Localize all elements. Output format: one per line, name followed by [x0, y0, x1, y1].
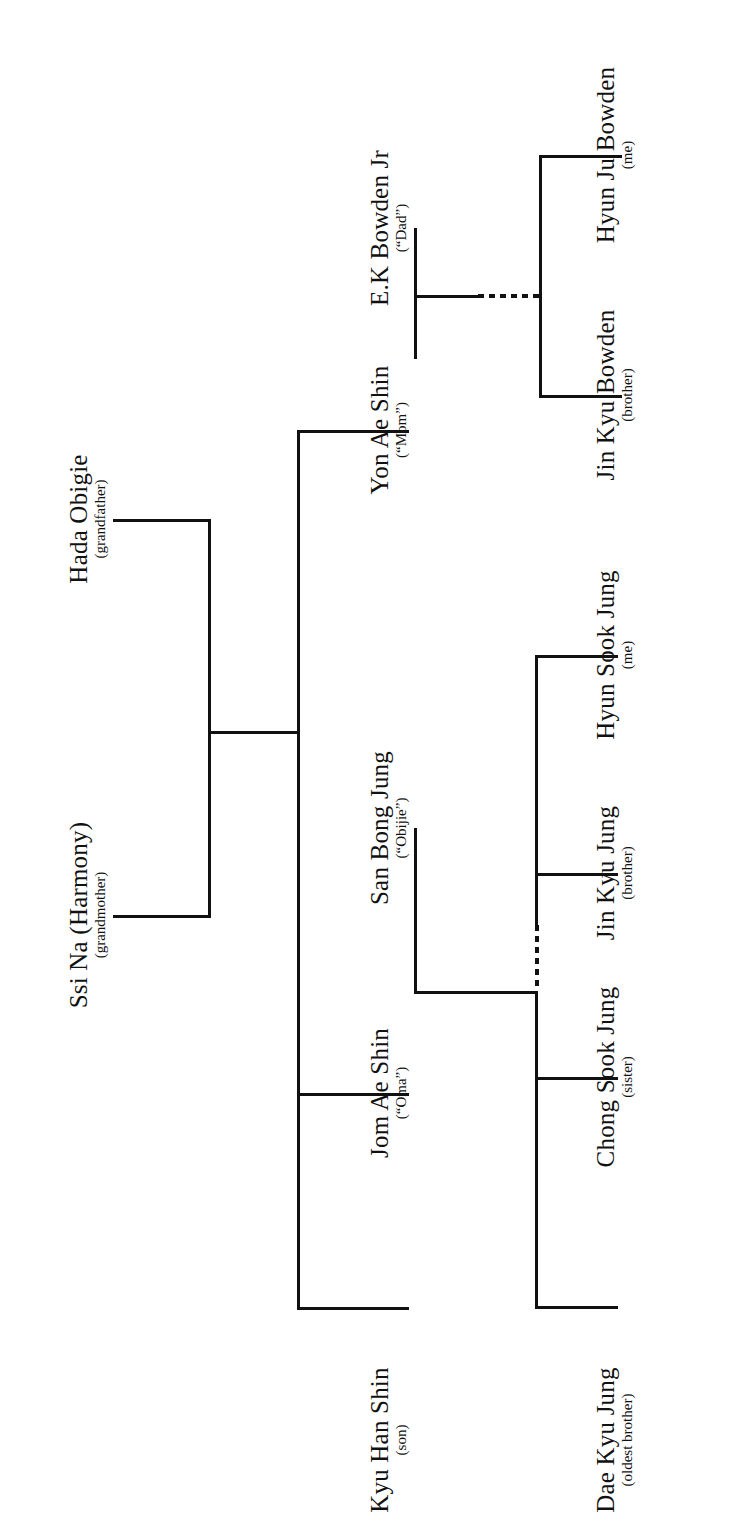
person-mom-role: (“Mom”) — [394, 402, 409, 458]
person-dad-role: (“Dad”) — [394, 204, 409, 252]
person-jung-oldest-name: Dae Kyu Jung — [593, 1367, 618, 1512]
person-jung-sister-name: Chong Sook Jung — [593, 987, 618, 1168]
person-bowden-brother: Jin Kyu Bowden (brother) — [635, 224, 677, 395]
person-grandmother-name: Ssi Na (Harmony) — [66, 822, 91, 1009]
line-oma-obijie-marriage-dotted — [535, 925, 539, 991]
person-dad-name: E.K Bowden Jr — [367, 150, 392, 306]
person-mom: Yon Ae Shin (“Mom”) — [409, 301, 451, 430]
line-grandfather-stub — [113, 519, 211, 522]
person-bowden-brother-name: Jin Kyu Bowden — [593, 310, 618, 481]
person-dad: E.K Bowden Jr (“Dad”) — [409, 72, 451, 228]
person-jung-sister-role: (sister) — [620, 1056, 635, 1098]
person-obijie-name: San Bong Jung — [367, 751, 392, 905]
person-grandfather-name: Hada Obigie — [66, 454, 91, 583]
line-grandmother-stub — [113, 915, 211, 918]
line-jung-children-bracket — [535, 655, 538, 927]
line-jung-oldest-stub — [535, 1306, 618, 1309]
person-jung-me-name: Hyun Sook Jung — [593, 570, 618, 740]
line-grandparents-descent — [208, 731, 300, 734]
person-bowden-me-name: Hyun Ju Bowden — [593, 67, 618, 243]
person-oma: Jom Ae Shin (“Oma”) — [409, 963, 451, 1093]
line-mom-dad-marriage-dotted — [478, 294, 542, 298]
line-mom-dad-union-stub — [414, 295, 478, 298]
person-grandfather: Hada Obigie (grandfather) — [108, 390, 150, 519]
person-grandfather-role: (grandfather) — [93, 479, 108, 558]
person-jung-brother-role: (brother) — [620, 846, 635, 899]
person-grandmother-role: (grandmother) — [93, 872, 108, 959]
person-son-role: (son) — [394, 1425, 409, 1456]
person-jung-me: Hyun Sook Jung (me) — [635, 486, 677, 656]
person-jung-me-role: (me) — [620, 641, 635, 669]
line-bowden-children-bracket — [539, 155, 542, 398]
line-grandparents-bracket — [208, 519, 211, 918]
person-bowden-me: Hyun Ju Bowden (me) — [635, 0, 677, 155]
person-son-name: Kyu Han Shin — [367, 1367, 392, 1512]
line-jung-children-bracket-lower — [535, 991, 538, 1309]
person-oma-name: Jom Ae Shin — [367, 1028, 392, 1158]
person-obijie-role: (“Obijie”) — [394, 798, 409, 859]
person-son: Kyu Han Shin (son) — [409, 1295, 451, 1440]
person-jung-brother: Jin Kyu Jung (brother) — [635, 739, 677, 873]
person-jung-brother-name: Jin Kyu Jung — [593, 806, 618, 940]
family-tree-diagram: Hada Obigie (grandfather) Ssi Na (Harmon… — [0, 0, 749, 1524]
person-jung-sister: Chong Sook Jung (sister) — [635, 896, 677, 1077]
person-jung-oldest: Dae Kyu Jung (oldest brother) — [635, 1295, 677, 1440]
person-mom-name: Yon Ae Shin — [367, 366, 392, 495]
person-bowden-brother-role: (brother) — [620, 368, 635, 421]
line-children-spine — [297, 430, 300, 1310]
person-oma-role: (“Oma”) — [394, 1067, 409, 1119]
person-jung-oldest-role: (oldest brother) — [620, 1394, 635, 1487]
line-child-son-stub — [297, 1307, 409, 1310]
person-obijie: San Bong Jung (“Obijie”) — [409, 674, 451, 828]
person-grandmother: Ssi Na (Harmony) (grandmother) — [108, 728, 150, 915]
person-bowden-me-role: (me) — [620, 141, 635, 169]
